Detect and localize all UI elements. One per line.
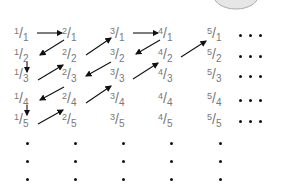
arrow-layer: [0, 0, 283, 196]
column-ellipsis-dot: [26, 142, 29, 145]
column-ellipsis-dot: [170, 142, 173, 145]
column-ellipsis-dot: [219, 160, 222, 163]
arrow-3-3-to-4-2: [133, 63, 158, 79]
column-ellipsis-dot: [26, 178, 29, 181]
column-ellipsis-dot: [219, 142, 222, 145]
arrow-2-1-to-1-2: [40, 40, 64, 55]
column-ellipsis-dot: [26, 160, 29, 163]
fraction-3-1: 3/1: [110, 26, 124, 40]
column-ellipsis-dot: [170, 160, 173, 163]
column-ellipsis-dot: [122, 178, 125, 181]
fraction-5-5: 5/5: [207, 112, 221, 126]
column-ellipsis-dot: [122, 142, 125, 145]
row-ellipsis-dot: [249, 99, 252, 102]
fraction-4-2: 4/2: [158, 47, 172, 61]
fraction-4-4: 4/4: [158, 91, 172, 105]
column-ellipsis-dot: [74, 178, 77, 181]
row-ellipsis-dot: [259, 99, 262, 102]
row-ellipsis-dot: [259, 34, 262, 37]
row-ellipsis-dot: [249, 55, 252, 58]
column-ellipsis-dot: [170, 178, 173, 181]
fraction-3-2: 3/2: [110, 47, 124, 61]
row-ellipsis-dot: [259, 75, 262, 78]
fraction-1-3: 1/3: [14, 67, 28, 81]
column-ellipsis-dot: [219, 178, 222, 181]
fraction-3-5: 3/5: [110, 112, 124, 126]
fraction-2-5: 2/5: [62, 112, 76, 126]
row-ellipsis-dot: [239, 55, 242, 58]
partial-circle-decoration: [214, 0, 258, 9]
fraction-5-1: 5/1: [207, 26, 221, 40]
fraction-1-2: 1/2: [14, 47, 28, 61]
fraction-2-1: 2/1: [62, 26, 76, 40]
arrow-2-4-to-3-3: [86, 86, 111, 103]
rational-enumeration-diagram: 1/12/13/14/15/11/22/23/24/25/21/32/33/34…: [0, 0, 283, 196]
fraction-5-3: 5/3: [207, 67, 221, 81]
row-ellipsis-dot: [239, 120, 242, 123]
row-ellipsis-dot: [249, 34, 252, 37]
row-ellipsis-dot: [239, 34, 242, 37]
fraction-4-5: 4/5: [158, 112, 172, 126]
row-ellipsis-dot: [239, 75, 242, 78]
fraction-3-4: 3/4: [110, 91, 124, 105]
fraction-1-1: 1/1: [14, 26, 28, 40]
fraction-2-3: 2/3: [62, 67, 76, 81]
arrow-1-3-to-2-2: [38, 65, 63, 80]
arrow-2-2-to-3-1: [86, 38, 111, 55]
fraction-3-3: 3/3: [110, 67, 124, 81]
row-ellipsis-dot: [249, 75, 252, 78]
fraction-2-2: 2/2: [62, 47, 76, 61]
fraction-1-5: 1/5: [14, 112, 28, 126]
column-ellipsis-dot: [74, 160, 77, 163]
column-ellipsis-dot: [74, 142, 77, 145]
arrow-4-1-to-3-2: [136, 40, 160, 54]
arrow-3-2-to-2-3: [86, 62, 111, 76]
fraction-1-4: 1/4: [14, 91, 28, 105]
fraction-4-1: 4/1: [158, 26, 172, 40]
fraction-5-4: 5/4: [207, 91, 221, 105]
row-ellipsis-dot: [239, 99, 242, 102]
arrow-2-3-to-1-4: [40, 87, 64, 100]
column-ellipsis-dot: [122, 160, 125, 163]
row-ellipsis-dot: [259, 120, 262, 123]
row-ellipsis-dot: [259, 55, 262, 58]
row-ellipsis-dot: [249, 120, 252, 123]
arrow-1-5-to-2-4: [38, 110, 63, 124]
arrow-4-2-to-5-1: [181, 41, 206, 57]
fraction-5-2: 5/2: [207, 47, 221, 61]
fraction-2-4: 2/4: [62, 91, 76, 105]
fraction-4-3: 4/3: [158, 67, 172, 81]
